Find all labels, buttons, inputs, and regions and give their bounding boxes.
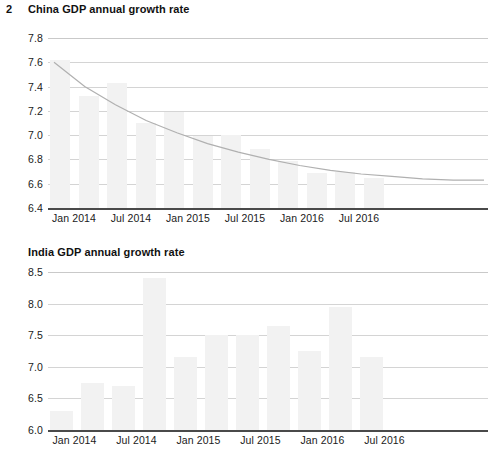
figure-1-title: China GDP annual growth rate [28,3,190,15]
y-axis-tick-label: 7.5 [28,329,48,341]
y-axis-tick-label: 6.0 [28,424,48,436]
x-axis-tick-label: Jul 2016 [364,434,405,446]
x-axis-tick-label: Jul 2015 [240,434,281,446]
india-gdp-figure: India GDP annual growth rate 6.06.57.07.… [0,246,496,469]
chart-bar [267,326,290,430]
chart-bar [236,335,259,430]
x-axis-tick-label: Jul 2016 [339,212,380,224]
page-header: 2 China GDP annual growth rate [0,0,496,22]
chart-bar [205,335,228,430]
chart-bar [174,357,197,430]
gridline [48,304,488,305]
gridline [48,272,488,273]
india-gdp-plot: 6.06.57.07.58.08.5Jan 2014Jul 2014Jan 20… [48,272,488,430]
y-axis-tick-label: 8.0 [28,298,48,310]
chart-bar [112,386,135,430]
page-number: 2 [6,3,12,15]
chart-bar [360,357,383,430]
chart-bar [143,278,166,430]
chart-bar [298,351,321,430]
x-axis-tick-label: Jan 2015 [166,212,210,224]
trend-line [48,38,488,208]
x-axis-tick-label: Jul 2014 [111,212,152,224]
y-axis-tick-label: 7.6 [28,56,48,68]
china-gdp-plot-area: 6.46.66.87.07.27.47.67.8Jan 2014Jul 2014… [48,38,488,208]
x-axis-tick-label: Jan 2014 [52,212,96,224]
x-axis-tick-label: Jan 2016 [280,212,324,224]
x-axis-tick-label: Jan 2014 [52,434,96,446]
x-axis-tick-label: Jul 2015 [225,212,266,224]
figure-2-title: India GDP annual growth rate [28,246,185,258]
x-axis-line [48,208,488,210]
y-axis-tick-label: 6.5 [28,392,48,404]
y-axis-tick-label: 7.0 [28,129,48,141]
x-axis-line [48,430,488,432]
chart-bar [50,411,73,430]
y-axis-tick-label: 7.0 [28,361,48,373]
chart-bar [81,383,104,430]
y-axis-tick-label: 6.6 [28,178,48,190]
x-axis-tick-label: Jan 2016 [300,434,344,446]
chart-bar [329,307,352,430]
page-root: 2 China GDP annual growth rate 6.46.66.8… [0,0,496,469]
y-axis-tick-label: 8.5 [28,266,48,278]
y-axis-tick-label: 6.8 [28,153,48,165]
y-axis-tick-label: 7.2 [28,105,48,117]
y-axis-tick-label: 7.4 [28,81,48,93]
china-gdp-figure: 6.46.66.87.07.27.47.67.8Jan 2014Jul 2014… [0,22,496,234]
x-axis-tick-label: Jul 2014 [116,434,157,446]
china-gdp-plot: 6.46.66.87.07.27.47.67.8Jan 2014Jul 2014… [48,38,488,208]
y-axis-tick-label: 7.8 [28,32,48,44]
india-gdp-plot-area: 6.06.57.07.58.08.5Jan 2014Jul 2014Jan 20… [48,272,488,430]
x-axis-tick-label: Jan 2015 [176,434,220,446]
y-axis-tick-label: 6.4 [28,202,48,214]
